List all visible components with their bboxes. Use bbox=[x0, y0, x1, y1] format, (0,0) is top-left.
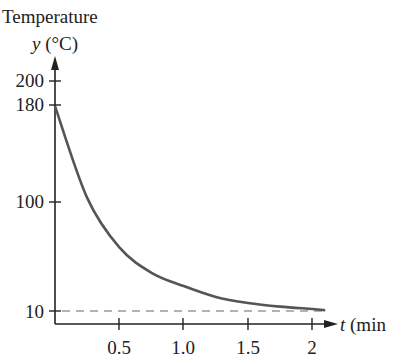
plot-area bbox=[0, 0, 394, 361]
x-axis-arrow-icon bbox=[324, 320, 338, 328]
y-axis-arrow-icon bbox=[51, 56, 59, 70]
temperature-curve bbox=[55, 106, 325, 310]
